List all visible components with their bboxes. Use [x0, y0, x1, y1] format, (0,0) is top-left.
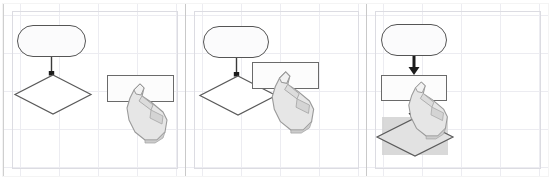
figure-stage: Flowchart editor drag-and-drop sequence …: [0, 0, 554, 183]
panel-1-process-label: [107, 75, 108, 76]
pointing-hand-icon: [127, 84, 167, 143]
panel-1-decision-shape[interactable]: [14, 74, 92, 115]
panel-3[interactable]: Step 3 - process shape inserted, decisio…: [367, 4, 548, 176]
panel-1-hand-cursor[interactable]: [121, 82, 177, 144]
panel-2[interactable]: Step 2 - drop process shape onto connect…: [186, 4, 366, 176]
panel-3-hand-cursor[interactable]: [403, 80, 457, 140]
pointing-hand-icon: [272, 72, 313, 133]
panel-2-process-label: [252, 62, 253, 63]
pointing-hand-icon: [409, 82, 448, 139]
panel-2-hand-cursor[interactable]: [266, 69, 324, 135]
panel-1[interactable]: Step 1 - drag process shape toward flow: [4, 4, 185, 176]
